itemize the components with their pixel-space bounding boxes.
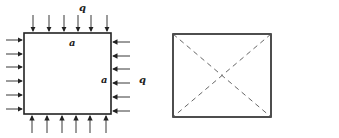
top-load-label: q [79,2,86,13]
right-side-label: a [101,74,107,85]
right-load-arrows [113,42,130,111]
bottom-load-arrows [32,116,106,133]
loaded-square: q a a q [6,2,146,133]
left-load-arrows [6,40,22,109]
right-load-label: q [139,74,146,85]
top-load-arrows [33,15,107,31]
diagonal-square [173,34,271,117]
top-side-label: a [69,37,75,48]
diagram: q a a q [0,0,339,138]
